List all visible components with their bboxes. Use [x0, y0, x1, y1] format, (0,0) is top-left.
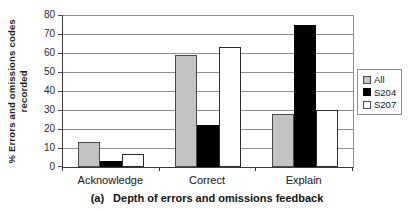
- bar-explain-s204: [294, 25, 316, 168]
- y-axis-title-line1: % Errors and omissions codes: [6, 19, 18, 163]
- y-axis-title-line2: recorded: [18, 19, 30, 163]
- y-tick-label-0: 0: [49, 162, 55, 172]
- y-tick-label-40: 40: [44, 86, 55, 96]
- bar-correct-all: [175, 55, 197, 167]
- legend-label-s204: S204: [374, 88, 396, 98]
- bar-group-explain: [256, 15, 353, 167]
- x-axis-category-labels: AcknowledgeCorrectExplain: [62, 174, 352, 186]
- x-tick-mark-3: [352, 168, 353, 171]
- caption-index: (a): [91, 192, 104, 204]
- x-tick-mark-1: [159, 168, 160, 171]
- legend-swatch-all: [363, 76, 371, 84]
- bar-correct-s204: [197, 125, 219, 167]
- bar-explain-all: [272, 114, 294, 167]
- y-tick-label-70: 70: [44, 29, 55, 39]
- y-axis-tick-labels: 01020304050607080: [34, 15, 56, 167]
- y-tick-label-80: 80: [44, 10, 55, 20]
- legend-item-all: All: [363, 75, 396, 85]
- x-axis-tick-marks: [62, 167, 353, 171]
- y-tick-label-10: 10: [44, 143, 55, 153]
- bar-acknowledge-all: [78, 142, 100, 167]
- y-axis-title: % Errors and omissions codes recorded: [0, 15, 36, 167]
- y-tick-label-60: 60: [44, 48, 55, 58]
- legend-label-s207: S207: [374, 100, 396, 110]
- legend-swatch-s204: [363, 88, 371, 96]
- legend-label-all: All: [374, 75, 385, 85]
- bar-group-correct: [160, 15, 257, 167]
- y-tick-label-20: 20: [44, 124, 55, 134]
- x-tick-mark-0: [62, 168, 63, 171]
- bar-acknowledge-s207: [122, 154, 144, 167]
- plot-area: [62, 15, 354, 168]
- y-tick-label-30: 30: [44, 105, 55, 115]
- bar-explain-s207: [316, 110, 338, 167]
- category-label-explain: Explain: [255, 174, 352, 186]
- caption-text: Depth of errors and omissions feedback: [113, 192, 323, 204]
- x-tick-mark-2: [255, 168, 256, 171]
- bar-correct-s207: [219, 47, 241, 167]
- figure: % Errors and omissions codes recorded 01…: [0, 0, 420, 211]
- legend-swatch-s207: [363, 101, 371, 109]
- legend-item-s204: S204: [363, 88, 396, 98]
- category-label-acknowledge: Acknowledge: [62, 174, 159, 186]
- legend: AllS204S207: [357, 69, 402, 115]
- category-label-correct: Correct: [159, 174, 256, 186]
- figure-caption: (a)Depth of errors and omissions feedbac…: [0, 192, 414, 204]
- y-tick-label-50: 50: [44, 67, 55, 77]
- legend-item-s207: S207: [363, 100, 396, 110]
- bar-group-acknowledge: [63, 15, 160, 167]
